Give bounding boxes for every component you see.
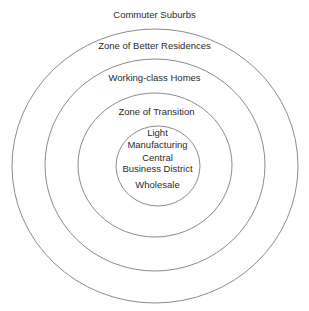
label-zone-of-transition: Zone of Transition bbox=[2, 106, 309, 117]
label-center-light: Light bbox=[3, 127, 309, 138]
label-commuter-suburbs: Commuter Suburbs bbox=[0, 9, 309, 20]
label-better-residences: Zone of Better Residences bbox=[0, 40, 309, 51]
label-working-class-homes: Working-class Homes bbox=[0, 72, 309, 83]
label-center-business-district: Business District bbox=[3, 163, 309, 174]
label-center-manufacturing: Manufacturing bbox=[3, 139, 309, 150]
concentric-zone-diagram: Commuter Suburbs Zone of Better Residenc… bbox=[0, 0, 309, 311]
label-center-central: Central bbox=[3, 152, 309, 163]
label-center-wholesale: Wholesale bbox=[3, 179, 309, 190]
